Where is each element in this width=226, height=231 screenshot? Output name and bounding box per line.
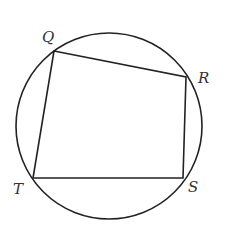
vertex-label-r: R — [197, 69, 209, 87]
inscribed-quadrilateral-diagram: Q R S T — [0, 0, 226, 231]
vertex-label-q: Q — [42, 28, 54, 46]
vertex-label-t: T — [13, 180, 24, 198]
quadrilateral-qrst — [33, 51, 186, 178]
circumscribed-circle — [16, 33, 202, 219]
vertex-label-s: S — [188, 178, 198, 196]
